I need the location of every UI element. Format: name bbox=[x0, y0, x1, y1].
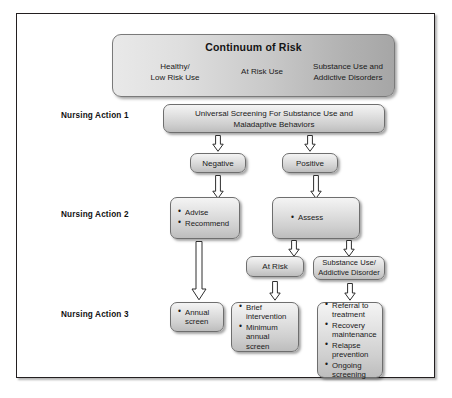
arrow-screening-to-positive bbox=[304, 135, 316, 152]
node-assess: Assess bbox=[272, 197, 360, 239]
arrow-at-risk-to-brief bbox=[269, 281, 281, 301]
list-item: Brief intervention bbox=[239, 303, 294, 322]
node-annual-screen-list: Annual screen bbox=[171, 306, 223, 328]
node-treatment-plan: Referral to treatment Recovery maintenan… bbox=[317, 302, 383, 378]
list-item: Referral to treatment bbox=[325, 301, 378, 320]
arrow-assess-to-substance-use bbox=[343, 240, 355, 257]
diagram-frame: Continuum of Risk Healthy/ Low Risk Use … bbox=[16, 13, 435, 378]
continuum-column-substance-use: Substance Use and Addictive Disorders bbox=[301, 62, 395, 83]
node-universal-screening-line1: Universal Screening For Substance Use an… bbox=[195, 108, 353, 119]
list-item: Annual screen bbox=[178, 308, 219, 327]
node-universal-screening-line2: Maladaptive Behaviors bbox=[234, 119, 315, 130]
node-negative: Negative bbox=[190, 153, 246, 173]
nursing-action-3-label: Nursing Action 3 bbox=[61, 310, 129, 319]
node-positive-label: Positive bbox=[296, 159, 324, 168]
list-item: Relapse prevention bbox=[325, 341, 378, 360]
continuum-title: Continuum of Risk bbox=[113, 41, 394, 53]
node-brief-intervention: Brief intervention Minimum annual screen bbox=[231, 302, 299, 352]
arrow-advise-to-annual-screen bbox=[191, 241, 207, 301]
node-positive: Positive bbox=[282, 153, 338, 173]
continuum-column-healthy: Healthy/ Low Risk Use bbox=[127, 62, 223, 83]
node-substance-use-disorder: Substance Use/ Addictive Disorder bbox=[313, 256, 385, 280]
node-advise-recommend: Advise Recommend bbox=[170, 197, 240, 239]
arrow-substance-use-to-treatment bbox=[344, 283, 356, 301]
list-item: Recommend bbox=[178, 219, 235, 228]
node-substance-use-line1: Substance Use/ bbox=[322, 258, 376, 268]
node-negative-label: Negative bbox=[202, 159, 234, 168]
node-brief-intervention-list: Brief intervention Minimum annual screen bbox=[232, 302, 298, 353]
node-assess-list: Assess bbox=[273, 212, 359, 225]
list-item: Minimum annual screen bbox=[239, 323, 294, 351]
diagram-canvas: Continuum of Risk Healthy/ Low Risk Use … bbox=[0, 0, 452, 398]
node-annual-screen: Annual screen bbox=[170, 302, 224, 332]
node-substance-use-line2: Addictive Disorder bbox=[318, 268, 380, 278]
node-treatment-plan-list: Referral to treatment Recovery maintenan… bbox=[318, 299, 382, 380]
node-advise-recommend-list: Advise Recommend bbox=[171, 206, 239, 230]
node-universal-screening: Universal Screening For Substance Use an… bbox=[163, 104, 385, 133]
nursing-action-1-label: Nursing Action 1 bbox=[61, 111, 129, 120]
list-item: Advise bbox=[178, 208, 235, 217]
node-at-risk-label: At Risk bbox=[262, 262, 287, 271]
list-item: Assess bbox=[291, 213, 355, 222]
arrow-screening-to-negative bbox=[212, 135, 224, 152]
arrow-negative-to-advise bbox=[212, 175, 224, 199]
list-item: Recovery maintenance bbox=[325, 321, 378, 340]
node-at-risk: At Risk bbox=[246, 256, 304, 277]
arrow-assess-to-at-risk bbox=[288, 240, 300, 257]
continuum-of-risk-banner: Continuum of Risk Healthy/ Low Risk Use … bbox=[112, 34, 395, 97]
arrow-positive-to-assess bbox=[310, 175, 322, 199]
list-item: Ongoing screening bbox=[325, 361, 378, 380]
continuum-columns: Healthy/ Low Risk Use At Risk Use Substa… bbox=[113, 62, 394, 92]
nursing-action-2-label: Nursing Action 2 bbox=[61, 210, 129, 219]
continuum-column-at-risk: At Risk Use bbox=[219, 67, 305, 78]
